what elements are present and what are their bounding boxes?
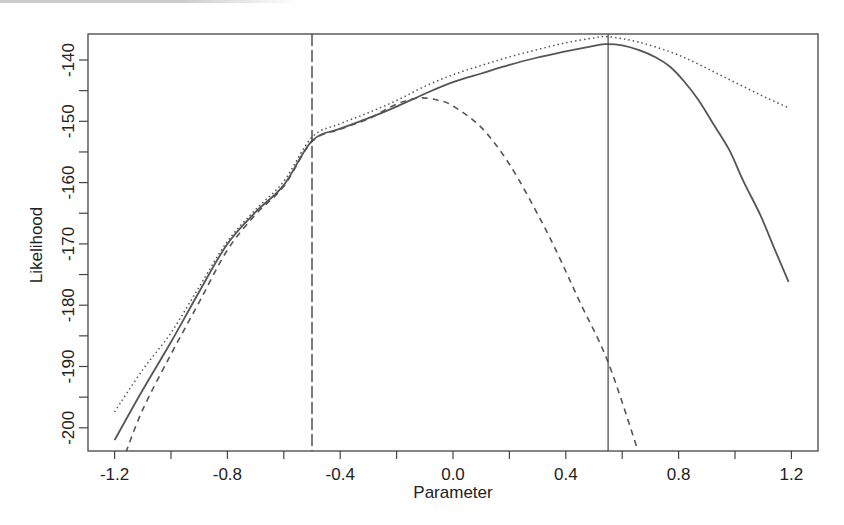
- y-tick-label: -170: [59, 227, 78, 261]
- x-axis-title: Parameter: [413, 483, 493, 502]
- y-tick-label: -190: [59, 349, 78, 383]
- plot-frame: [88, 34, 818, 451]
- series-dashed-line: [126, 98, 638, 452]
- x-tick-label: 1.2: [780, 465, 804, 484]
- y-tick-label: -150: [59, 104, 78, 138]
- x-tick-label: 0.8: [667, 465, 691, 484]
- x-tick-label: 0.4: [554, 465, 578, 484]
- x-tick-label: 0.0: [441, 465, 465, 484]
- vertical-lines-layer: [312, 34, 608, 451]
- y-tick-label: -140: [59, 43, 78, 77]
- y-tick-label: -180: [59, 288, 78, 322]
- series-dotted-line: [115, 36, 789, 411]
- y-tick-label: -160: [59, 166, 78, 200]
- likelihood-chart: -1.2-0.8-0.40.00.40.81.2 -200-190-180-17…: [0, 0, 844, 525]
- curves-layer: [115, 36, 789, 452]
- series-solid-line: [115, 44, 789, 440]
- x-tick-label: -0.4: [326, 465, 355, 484]
- y-tick-label: -200: [59, 411, 78, 445]
- x-tick-label: -0.8: [213, 465, 242, 484]
- y-axis-title: Likelihood: [27, 207, 46, 284]
- x-tick-label: -1.2: [100, 465, 129, 484]
- y-axis: -200-190-180-170-160-150-140: [59, 43, 88, 445]
- x-axis: -1.2-0.8-0.40.00.40.81.2: [100, 451, 803, 484]
